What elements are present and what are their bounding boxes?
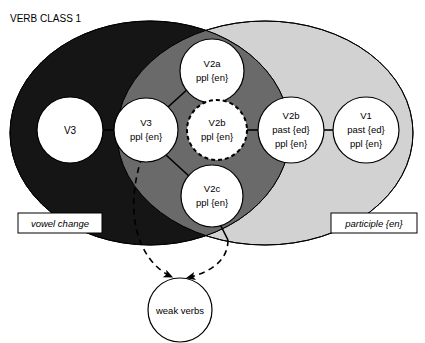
diagram-title: VERB CLASS 1 bbox=[10, 13, 82, 24]
node-label-v2b-past-line2: past {ed} bbox=[272, 124, 310, 135]
node-label-weak-verbs: weak verbs bbox=[155, 305, 204, 316]
box-label-participle-text: participle {en} bbox=[344, 218, 403, 229]
verb-class-diagram: V3 V3 ppl {en} V2a ppl {en} V2b ppl {en}… bbox=[0, 0, 425, 343]
node-label-v1-past-line3: ppl {en} bbox=[350, 138, 382, 149]
node-label-v2c-ppl-line2: ppl {en} bbox=[196, 197, 228, 208]
box-label-vowel-change-text: vowel change bbox=[31, 218, 89, 229]
node-label-v1-past-line1: V1 bbox=[360, 110, 372, 121]
box-label-vowel-change: vowel change bbox=[18, 213, 102, 233]
node-label-v2a-ppl-line2: ppl {en} bbox=[196, 72, 228, 83]
node-label-v2b-ppl-line2: ppl {en} bbox=[201, 131, 233, 142]
venn-diagram-canvas: V3 V3 ppl {en} V2a ppl {en} V2b ppl {en}… bbox=[0, 0, 425, 343]
node-label-v2b-ppl-line1: V2b bbox=[209, 117, 226, 128]
arrow-right-to-weak bbox=[187, 240, 228, 278]
node-label-v2c-ppl-line1: V2c bbox=[204, 183, 221, 194]
node-label-v1-past-line2: past {ed} bbox=[347, 124, 385, 135]
node-label-v2b-past-line1: V2b bbox=[283, 110, 300, 121]
node-label-v3-strong: V3 bbox=[64, 125, 77, 136]
node-label-v3-ppl-line1: V3 bbox=[140, 117, 152, 128]
box-label-participle: participle {en} bbox=[331, 213, 417, 233]
node-label-v3-ppl-line2: ppl {en} bbox=[130, 131, 162, 142]
node-label-v2a-ppl-line1: V2a bbox=[204, 58, 222, 69]
node-label-v2b-past-line3: ppl {en} bbox=[275, 138, 307, 149]
